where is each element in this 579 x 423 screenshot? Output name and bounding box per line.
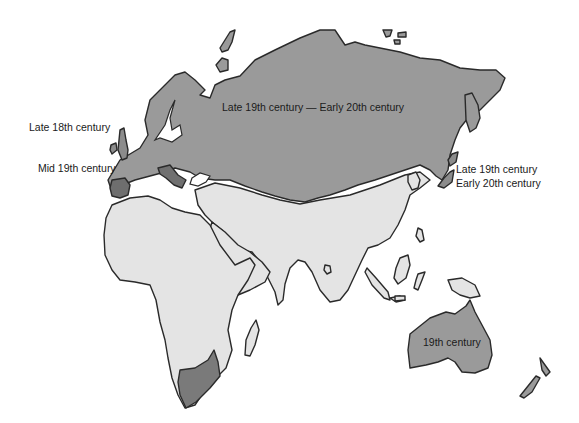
taiwan — [416, 228, 424, 242]
novaya-zemlya — [216, 30, 235, 72]
world-map — [0, 0, 579, 423]
label-iberia: Mid 19th century — [38, 162, 116, 175]
arctic-island-3 — [394, 40, 400, 44]
new-guinea — [448, 278, 480, 298]
label-japan-1: Late 19th century — [456, 163, 537, 176]
new-zealand-south — [520, 376, 540, 398]
sulawesi — [414, 272, 425, 290]
new-zealand-north — [540, 358, 550, 376]
label-britain: Late 18th century — [29, 121, 110, 134]
label-japan-2: Early 20th century — [456, 177, 541, 190]
black-sea — [190, 173, 210, 186]
ireland-region — [110, 143, 117, 154]
borneo — [394, 255, 410, 284]
timor — [395, 296, 405, 301]
label-russia: Late 19th century — Early 20th century — [222, 101, 404, 114]
britain-region — [118, 128, 128, 160]
arctic-island-1 — [383, 30, 392, 37]
sumatra — [365, 268, 390, 300]
madagascar — [245, 320, 259, 356]
iberia-region — [110, 178, 130, 198]
label-australia: 19th century — [423, 336, 481, 349]
arctic-island-2 — [398, 32, 406, 37]
